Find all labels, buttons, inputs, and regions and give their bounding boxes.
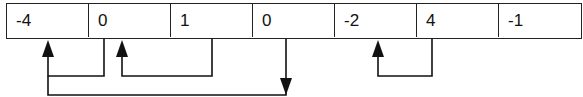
- arrow-2-to-1: [122, 39, 212, 76]
- arrow-5-to-4: [378, 39, 432, 76]
- arrowhead-up-icon: [372, 40, 384, 57]
- link-arrows: [0, 0, 583, 97]
- arrowhead-up-icon: [116, 40, 128, 57]
- arrow-0-to-3: [48, 39, 286, 95]
- arrow-1-to-0: [48, 39, 104, 76]
- arrowhead-down-icon: [280, 78, 292, 95]
- arrowhead-up-icon: [42, 40, 54, 57]
